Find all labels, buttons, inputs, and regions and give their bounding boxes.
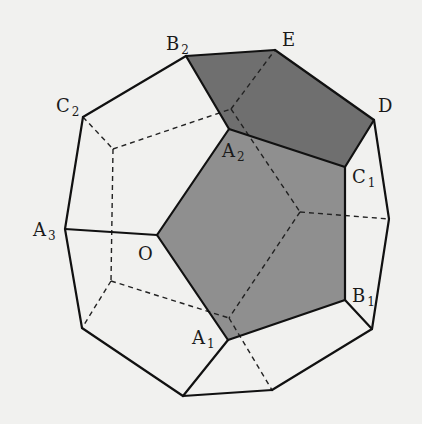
edge-A3-O (65, 229, 157, 235)
edge-P_left_low-P_bottom (82, 328, 183, 396)
shaded-faces (157, 50, 374, 340)
hidden-edge (113, 109, 231, 149)
edge-A3-P_left_low (65, 229, 82, 328)
hidden-edge (83, 117, 113, 149)
edge-P_right_low-P_right_mid (372, 219, 389, 329)
vertex-label-E: E (282, 29, 295, 50)
edge-P_bottom-P_bottom_right (183, 390, 272, 396)
edge-P_right_mid-D (374, 120, 389, 219)
vertex-label-A1: A1 (191, 327, 215, 351)
vertex-label-A3: A3 (32, 219, 56, 243)
edge-B2-C2 (83, 56, 186, 117)
edge-P_bottom_right-P_right_low (272, 329, 372, 390)
vertex-label-D: D (378, 95, 392, 116)
face-O-A1-B1-C1-A2 (157, 129, 345, 340)
dodecahedron-diagram: B2EC2DA2C1A3OB1A1 (0, 0, 422, 424)
edge-P_bottom-A1 (183, 340, 228, 396)
vertex-label-C2: C2 (56, 95, 79, 119)
edge-C2-A3 (65, 117, 83, 229)
vertex-label-B2: B2 (166, 33, 189, 57)
vertex-label-B1: B1 (352, 285, 375, 309)
vertex-label-C1: C1 (352, 166, 375, 190)
vertex-label-O: O (138, 243, 153, 264)
hidden-edge (82, 281, 111, 328)
hidden-edge (111, 149, 113, 281)
